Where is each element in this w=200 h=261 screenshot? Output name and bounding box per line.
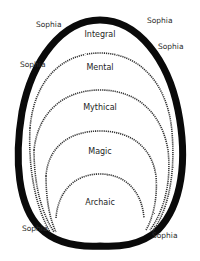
sophia-label-bottom-right: Sophia (152, 231, 178, 240)
sophia-label-top-right: Sophia (147, 16, 173, 25)
stage-label-archaic: Archaic (85, 198, 115, 207)
magic-arc (46, 131, 156, 230)
stage-label-mental: Mental (86, 63, 113, 72)
sophia-label-top-left: Sophia (36, 20, 62, 29)
archaic-arc (56, 174, 144, 218)
sophia-label-bottom-left: Sophia (22, 224, 48, 233)
outer-egg-boundary (18, 20, 182, 246)
sophia-label-upper-left: Sophia (20, 60, 46, 69)
stage-label-magic: Magic (88, 147, 112, 156)
stage-label-mythical: Mythical (83, 103, 117, 112)
sophia-label-upper-right: Sophia (158, 42, 184, 51)
consciousness-egg-diagram: Integral Mental Mythical Magic Archaic S… (0, 0, 200, 261)
stage-label-integral: Integral (85, 30, 116, 39)
